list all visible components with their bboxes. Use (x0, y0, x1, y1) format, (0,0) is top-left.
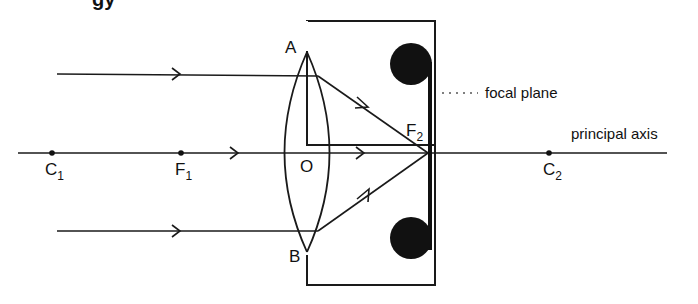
lower-roller (390, 217, 432, 259)
point-f1 (178, 150, 184, 156)
principal-axis-label: principal axis (571, 125, 658, 142)
title-fragment: gy (92, 0, 116, 10)
label-f1: F1 (175, 160, 192, 183)
point-c1 (49, 150, 55, 156)
point-c2 (546, 150, 552, 156)
label-a: A (285, 38, 297, 57)
focal-plane-label: focal plane (485, 84, 558, 101)
label-c1: C1 (45, 160, 64, 183)
arrow-icon (172, 68, 180, 80)
lens-left-surface (285, 52, 308, 252)
label-c2: C2 (543, 160, 562, 183)
convex-lens-ray-diagram: gy A B O C1 F1 F2 C2 focal plane princip… (0, 0, 698, 304)
refracted-ray-top (318, 76, 428, 153)
label-f2: F2 (406, 121, 423, 144)
label-o: O (300, 157, 313, 176)
incident-ray-top (57, 74, 318, 76)
upper-roller (390, 43, 432, 85)
label-b: B (289, 247, 300, 266)
